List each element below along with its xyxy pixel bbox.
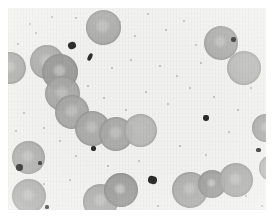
speck-26 bbox=[179, 145, 181, 147]
cell-left-edge-upper bbox=[8, 49, 29, 87]
debris-lower-left bbox=[38, 161, 42, 165]
speck-29 bbox=[107, 165, 109, 167]
speck-39 bbox=[69, 179, 71, 181]
debris-large-upper bbox=[67, 40, 77, 49]
figure-title: Peripheral blood smear micrograph bbox=[0, 21, 1, 22]
speck-1 bbox=[51, 16, 53, 18]
cell-right-edge-mid bbox=[252, 114, 266, 142]
speck-35 bbox=[87, 85, 89, 87]
speck-21 bbox=[250, 87, 252, 89]
cell-bottom-right-3 bbox=[217, 161, 255, 199]
speck-15 bbox=[111, 67, 113, 69]
figure-modality: Brightfield light microscopy bbox=[0, 16, 1, 17]
speck-33 bbox=[23, 112, 25, 114]
speck-8 bbox=[165, 29, 168, 32]
speck-17 bbox=[167, 103, 169, 105]
cell-top-chain-head bbox=[83, 8, 123, 47]
speck-4 bbox=[35, 32, 37, 34]
cell-chain-7 bbox=[124, 114, 157, 147]
speck-3 bbox=[17, 43, 19, 45]
speck-31 bbox=[59, 140, 61, 142]
speck-28 bbox=[138, 160, 140, 162]
speck-13 bbox=[159, 65, 161, 67]
speck-24 bbox=[261, 205, 263, 207]
speck-12 bbox=[176, 75, 178, 77]
debris-top-right bbox=[231, 37, 236, 42]
debris-right-mid bbox=[256, 148, 261, 152]
speck-5 bbox=[119, 21, 121, 23]
speck-11 bbox=[200, 62, 202, 64]
cell-left-lower-2 bbox=[11, 178, 48, 210]
speck-6 bbox=[134, 35, 136, 37]
speck-20 bbox=[237, 109, 239, 111]
debris-mid-right bbox=[147, 175, 157, 184]
speck-0 bbox=[29, 23, 32, 26]
debris-square-left bbox=[16, 164, 23, 171]
speck-27 bbox=[157, 205, 159, 207]
speck-34 bbox=[15, 130, 17, 132]
speck-14 bbox=[130, 59, 132, 61]
debris-bottom-left bbox=[45, 205, 49, 209]
speck-30 bbox=[75, 155, 77, 157]
microscope-field-of-view bbox=[8, 8, 266, 210]
cell-right-edge-lower bbox=[259, 155, 266, 181]
speck-22 bbox=[228, 131, 230, 133]
speck-37 bbox=[125, 109, 127, 111]
speck-7 bbox=[147, 13, 149, 15]
speck-38 bbox=[43, 183, 45, 185]
speck-36 bbox=[103, 97, 105, 99]
speck-9 bbox=[183, 20, 185, 22]
micrograph-figure: Peripheral blood smear micrograph Red bl… bbox=[0, 0, 274, 220]
figure-subject: Red blood cells (erythrocytes) bbox=[0, 16, 1, 17]
speck-23 bbox=[245, 195, 247, 197]
speck-18 bbox=[189, 87, 191, 89]
speck-16 bbox=[145, 91, 147, 93]
speck-19 bbox=[213, 96, 215, 98]
speck-32 bbox=[43, 127, 45, 129]
speck-10 bbox=[195, 44, 197, 46]
speck-2 bbox=[75, 17, 77, 19]
debris-streak-upper bbox=[86, 53, 93, 62]
speck-25 bbox=[205, 154, 207, 156]
debris-center-low bbox=[91, 146, 96, 151]
debris-upper-right bbox=[203, 115, 209, 121]
